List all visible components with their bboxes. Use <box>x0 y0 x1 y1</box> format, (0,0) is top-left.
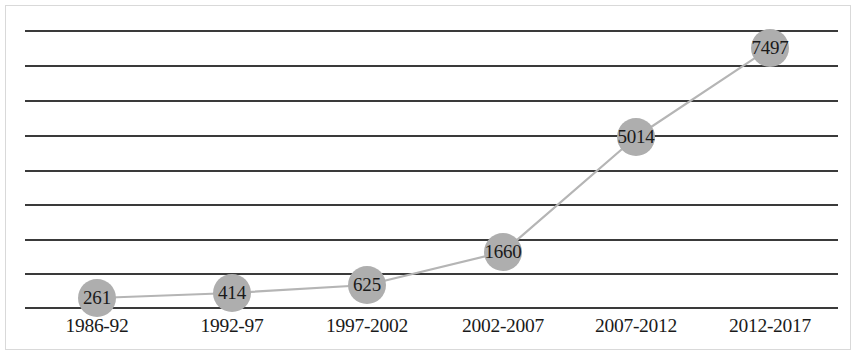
category-axis-label: 2007-2012 <box>595 315 677 337</box>
category-axis-label: 1997-2002 <box>326 315 408 337</box>
line-chart-figure: 261414625166050147497 1986-921992-971997… <box>0 0 856 355</box>
category-axis-label: 2002-2007 <box>462 315 544 337</box>
category-axis: 1986-921992-971997-20022002-20072007-201… <box>0 315 856 347</box>
category-axis-label: 2012-2017 <box>729 315 811 337</box>
category-axis-label: 1986-92 <box>66 315 129 337</box>
data-point-label: 625 <box>353 274 381 296</box>
data-point-label: 7497 <box>751 37 788 59</box>
series-line <box>97 48 770 298</box>
data-point-label: 1660 <box>484 241 521 263</box>
category-axis-label: 1992-97 <box>201 315 264 337</box>
data-point-label: 414 <box>218 282 246 304</box>
series-line-group <box>0 0 856 355</box>
data-point-label: 5014 <box>617 126 654 148</box>
plot-area: 261414625166050147497 <box>0 0 856 355</box>
data-point-label: 261 <box>83 287 111 309</box>
